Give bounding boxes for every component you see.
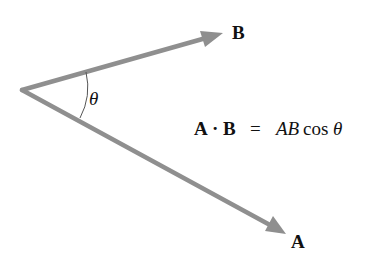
equation-theta: θ <box>333 118 342 139</box>
vector-b-shaft <box>22 38 206 90</box>
equation-dot-operator: · <box>212 118 218 139</box>
vector-a-shaft <box>22 90 270 225</box>
equation-magnitudes-ab: AB <box>274 118 300 139</box>
vector-a <box>22 90 286 234</box>
vector-b-label: B <box>232 22 245 43</box>
vector-a-label: A <box>291 231 305 252</box>
equation-cos: cos <box>303 118 328 139</box>
vector-b-arrowhead-icon <box>200 31 223 47</box>
equation-equals-sign: = <box>250 118 261 139</box>
equation-vector-a: A <box>194 118 208 139</box>
dot-product-equation: A · B = AB cos θ <box>194 118 342 139</box>
angle-theta-label: θ <box>89 88 98 109</box>
dot-product-diagram: B A θ A · B = AB cos θ <box>0 0 372 265</box>
angle-arc <box>80 72 88 118</box>
vector-b <box>22 31 223 90</box>
equation-vector-b: B <box>223 118 236 139</box>
